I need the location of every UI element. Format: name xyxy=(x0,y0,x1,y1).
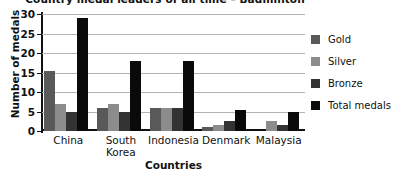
bar xyxy=(55,104,66,131)
bar xyxy=(119,112,130,132)
bar xyxy=(130,61,141,131)
y-axis-tick xyxy=(37,131,42,132)
bar-group xyxy=(150,14,194,131)
legend-label: Gold xyxy=(328,34,351,45)
legend-swatch-icon xyxy=(311,57,320,66)
bar-group xyxy=(97,14,141,131)
y-axis-tick xyxy=(37,34,42,35)
bar xyxy=(288,112,299,132)
legend-item[interactable]: Bronze xyxy=(311,72,397,94)
y-axis-tick-label: 5 xyxy=(28,106,35,118)
chart-title: Country medal leaders of all time – Badm… xyxy=(0,0,330,5)
bar xyxy=(66,112,77,132)
y-axis-tick-label: 10 xyxy=(20,86,35,98)
bar-group xyxy=(255,14,299,131)
y-axis-label: Number of medals xyxy=(9,5,21,123)
x-axis-category-label: Malaysia xyxy=(246,135,311,147)
bar-chart: Country medal leaders of all time – Badm… xyxy=(0,0,397,174)
legend-item[interactable]: Gold xyxy=(311,28,397,50)
bar-group xyxy=(44,14,88,131)
bar xyxy=(150,108,161,131)
bar xyxy=(202,127,213,131)
bar xyxy=(108,104,119,131)
legend-label: Bronze xyxy=(328,78,363,89)
y-axis-tick-label: 25 xyxy=(20,28,35,40)
y-axis-tick xyxy=(37,53,42,54)
legend-item[interactable]: Silver xyxy=(311,50,397,72)
bar xyxy=(224,121,235,131)
category-label-line: Malaysia xyxy=(246,135,311,147)
category-label-line: Korea xyxy=(89,147,154,159)
legend-swatch-icon xyxy=(311,101,320,110)
bar xyxy=(161,108,172,131)
y-axis-tick xyxy=(37,73,42,74)
legend-label: Total medals xyxy=(328,100,391,111)
plot-area: 051015202530 xyxy=(42,14,305,131)
y-axis-tick-label: 15 xyxy=(20,67,35,79)
bar xyxy=(44,71,55,131)
legend-label: Silver xyxy=(328,56,356,67)
y-axis-tick-label: 20 xyxy=(20,47,35,59)
bar xyxy=(172,108,183,131)
legend-item[interactable]: Total medals xyxy=(311,94,397,116)
y-axis-tick-label: 0 xyxy=(28,125,35,137)
bar xyxy=(235,110,246,131)
bar-group xyxy=(202,14,246,131)
legend-swatch-icon xyxy=(311,79,320,88)
bar xyxy=(77,18,88,131)
y-axis-tick-label: 30 xyxy=(20,8,35,20)
bar xyxy=(266,121,277,131)
x-axis-label: Countries xyxy=(42,159,305,171)
y-axis-tick xyxy=(37,92,42,93)
bar xyxy=(213,125,224,131)
bar xyxy=(183,61,194,131)
legend-swatch-icon xyxy=(311,35,320,44)
bar xyxy=(97,108,108,131)
y-axis-tick xyxy=(37,112,42,113)
bar xyxy=(277,125,288,131)
legend: GoldSilverBronzeTotal medals xyxy=(311,28,397,116)
y-axis-tick xyxy=(37,14,42,15)
